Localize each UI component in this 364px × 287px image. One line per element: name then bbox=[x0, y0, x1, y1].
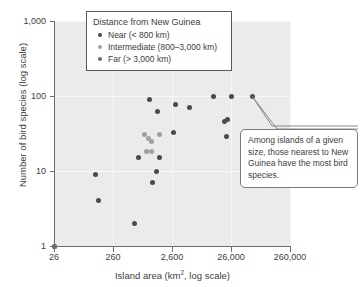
data-point bbox=[154, 169, 159, 174]
legend-item-label: Far (> 3,000 km) bbox=[108, 53, 171, 65]
legend-items: Near (< 800 km)Intermediate (800–3,000 k… bbox=[93, 29, 225, 65]
y-tick-mark bbox=[50, 171, 55, 172]
x-axis-title-base: Island area (km bbox=[115, 270, 180, 281]
y-tick-mark bbox=[50, 21, 55, 22]
data-point bbox=[173, 102, 178, 107]
legend-item-near: Near (< 800 km) bbox=[93, 29, 225, 41]
y-tick-label: 1 bbox=[2, 242, 46, 251]
data-point bbox=[211, 94, 216, 99]
y-axis-title: Number of bird species (log scale) bbox=[18, 25, 28, 205]
x-tick-label: 260,000 bbox=[260, 253, 320, 262]
x-tick-label: 26,000 bbox=[201, 253, 261, 262]
legend-title: Distance from New Guinea bbox=[93, 16, 225, 28]
callout-box: Among islands of a given size, those nea… bbox=[240, 129, 358, 188]
data-point bbox=[52, 244, 57, 249]
y-axis-spine bbox=[54, 21, 55, 247]
data-point bbox=[250, 94, 255, 99]
x-axis-title-tail: , log scale) bbox=[184, 270, 230, 281]
x-tick-label: 260 bbox=[83, 253, 143, 262]
x-tick-label: 26 bbox=[24, 253, 84, 262]
x-tick-label: 2,600 bbox=[142, 253, 202, 262]
legend-marker-icon bbox=[98, 33, 102, 37]
callout-text: Among islands of a given size, those nea… bbox=[248, 135, 350, 181]
data-point bbox=[229, 94, 234, 99]
data-point bbox=[149, 139, 154, 144]
legend-item-far: Far (> 3,000 km) bbox=[93, 53, 225, 65]
x-axis-title: Island area (km2, log scale) bbox=[54, 268, 291, 281]
scatter-plot-figure: 1101001,000 262602,60026,000260,000 Numb… bbox=[0, 0, 364, 287]
data-point bbox=[132, 221, 137, 226]
data-point bbox=[157, 132, 162, 137]
y-tick-mark bbox=[50, 96, 55, 97]
legend-item-label: Intermediate (800–3,000 km) bbox=[108, 41, 217, 53]
legend-marker-icon bbox=[98, 57, 102, 61]
data-point bbox=[93, 172, 98, 177]
data-point bbox=[150, 180, 155, 185]
legend-marker-icon bbox=[98, 45, 102, 49]
legend-item-intermediate: Intermediate (800–3,000 km) bbox=[93, 41, 225, 53]
data-point bbox=[149, 149, 154, 154]
legend-box: Distance from New Guinea Near (< 800 km)… bbox=[86, 11, 232, 71]
legend-item-label: Near (< 800 km) bbox=[108, 29, 170, 41]
